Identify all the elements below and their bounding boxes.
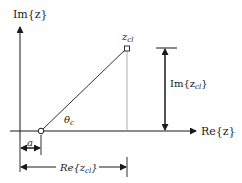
re-zcl-label: Re{zcl} <box>59 162 98 175</box>
origin-point-marker <box>38 128 44 134</box>
a-label: a <box>27 137 33 148</box>
angle-label: θc <box>64 114 74 127</box>
zcl-label: zcl <box>121 31 133 44</box>
zcl-point-marker <box>125 46 130 51</box>
im-zcl-label: Im{zcl} <box>170 78 208 91</box>
real-axis-label: Re{z} <box>201 125 236 138</box>
im-zcl-dimension <box>156 48 177 130</box>
imaginary-axis-label: Im{z} <box>13 8 48 21</box>
complex-plane-diagram: Im{z} Re{z} zcl θc Im{zcl} a Re{zcl} <box>0 0 242 183</box>
radial-line <box>43 49 126 129</box>
